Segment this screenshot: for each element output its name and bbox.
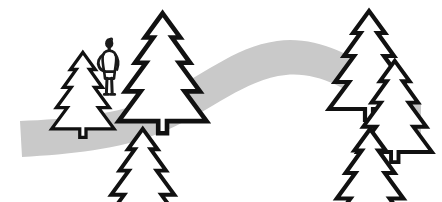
landscape-drawing: Pine tree (upper left, small)Pine tree (… (0, 0, 442, 202)
illustration-canvas: Forest landscape with winding road Clip-… (0, 0, 442, 202)
